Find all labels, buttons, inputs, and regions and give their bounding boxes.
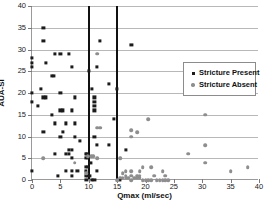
x-tick-label: 35 [226,183,234,191]
data-point [53,52,56,55]
data-point [67,148,70,151]
data-point [73,161,77,165]
data-point [130,174,134,178]
data-point [203,161,207,165]
data-point [147,117,151,121]
data-point [67,152,70,155]
y-tick-label: 20 [18,89,26,97]
x-tick-label: 25 [170,183,178,191]
data-point [53,152,56,155]
x-tick-label: 0 [30,183,34,191]
y-tick-mark [28,28,32,29]
gridline [32,50,258,51]
y-tick-mark [28,71,32,72]
data-point [90,87,93,90]
data-point [155,178,159,182]
data-point [96,170,99,173]
data-point [132,176,136,180]
y-tick-label: 0 [22,176,26,184]
y-tick-mark [28,50,32,51]
data-point [99,39,102,42]
data-point [96,65,99,68]
data-point [186,152,190,156]
data-point [64,122,67,125]
data-point [152,174,156,178]
data-point [130,44,133,47]
y-axis-title: AUA-SI [0,79,6,107]
data-point [42,131,45,134]
data-point [93,104,96,107]
vertical-reference-line [116,6,118,179]
y-tick-mark [28,93,32,94]
data-point [161,170,165,174]
y-tick-label: 10 [18,133,26,141]
legend-label: Stricture Present [199,69,259,77]
data-point [121,172,125,176]
data-point [42,39,45,42]
data-point [59,109,62,112]
scatter-plot-figure: AUA-SI Qmax (ml/sec) 0510152025303540 05… [0,0,267,205]
data-point [164,174,168,178]
data-point [45,96,48,99]
data-point [30,61,33,64]
data-point [53,122,56,125]
data-point [246,165,250,169]
data-point [70,170,73,173]
data-point [98,126,102,130]
data-point [229,170,233,174]
data-point [53,74,56,77]
y-tick-mark [28,6,32,7]
data-point [149,165,153,169]
data-point [130,128,134,132]
legend-entry-stricture-absent: Stricture Absent [189,79,251,91]
y-tick-label: 5 [22,155,26,163]
data-point [70,148,73,151]
vertical-reference-line [88,6,90,179]
data-point [124,174,128,178]
square-marker-icon [189,72,197,75]
data-point [79,139,82,142]
x-tick-label: 5 [58,183,62,191]
gridline [32,158,258,159]
data-point [138,170,142,174]
data-point [67,52,70,55]
data-point [161,178,165,182]
data-point [93,96,96,99]
data-point [138,176,142,180]
data-point [30,170,33,173]
data-point [30,100,33,103]
data-point [70,65,73,68]
y-tick-label: 40 [18,2,26,10]
data-point [124,148,127,151]
data-point [107,83,110,86]
x-tick-label: 10 [85,183,93,191]
legend-label: Stricture Absent [199,81,257,89]
data-point [62,109,65,112]
data-point [158,178,162,182]
circle-marker-icon [189,83,197,86]
data-point [130,178,134,182]
data-point [73,96,76,99]
data-point [203,143,207,147]
data-point [64,152,67,155]
x-tick-label: 30 [198,183,206,191]
y-tick-mark [28,115,32,116]
data-point [39,87,42,90]
data-point [93,100,96,103]
data-point [95,126,99,130]
x-tick-label: 40 [255,183,263,191]
gridline [32,137,258,138]
data-point [50,74,53,77]
data-point [124,176,128,180]
y-tick-label: 25 [18,68,26,76]
y-tick-label: 15 [18,111,26,119]
data-point [70,109,73,112]
data-point [96,144,99,147]
data-point [64,170,67,173]
data-point [76,170,79,173]
y-tick-label: 30 [18,46,26,54]
data-point [124,170,128,174]
data-point [45,61,48,64]
y-tick-mark [28,158,32,159]
data-point [73,122,76,125]
